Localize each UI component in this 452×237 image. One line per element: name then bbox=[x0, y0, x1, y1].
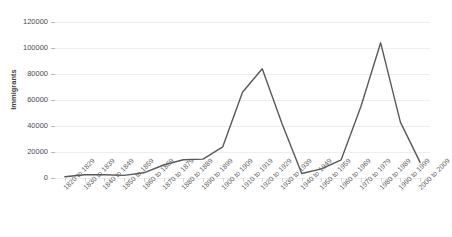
x-tick-mark bbox=[203, 178, 204, 182]
y-tick-mark bbox=[51, 152, 55, 153]
x-tick-mark bbox=[341, 178, 342, 182]
x-tick-mark bbox=[144, 178, 145, 182]
y-tick-mark bbox=[51, 48, 55, 49]
x-tick-mark bbox=[400, 178, 401, 182]
x-tick-mark bbox=[321, 178, 322, 182]
x-tick-mark bbox=[381, 178, 382, 182]
x-tick-mark bbox=[183, 178, 184, 182]
x-tick-mark bbox=[302, 178, 303, 182]
y-tick-mark bbox=[51, 22, 55, 23]
x-tick-mark bbox=[104, 178, 105, 182]
x-tick-mark bbox=[124, 178, 125, 182]
x-tick-mark bbox=[85, 178, 86, 182]
x-tick-mark bbox=[262, 178, 263, 182]
x-tick-mark bbox=[361, 178, 362, 182]
x-tick-mark bbox=[420, 178, 421, 182]
x-tick-mark bbox=[282, 178, 283, 182]
y-tick-mark bbox=[51, 126, 55, 127]
y-tick-mark bbox=[51, 100, 55, 101]
x-tick-mark bbox=[223, 178, 224, 182]
y-tick-mark bbox=[51, 178, 55, 179]
y-tick-mark bbox=[51, 74, 55, 75]
x-tick-mark bbox=[164, 178, 165, 182]
x-tick-mark bbox=[243, 178, 244, 182]
x-tick-mark bbox=[65, 178, 66, 182]
